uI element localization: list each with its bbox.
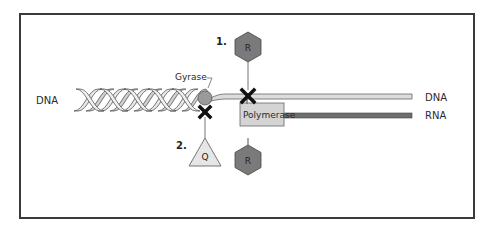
dna-right-label: DNA [425, 92, 447, 103]
inhibitor-r-top-label: R [245, 43, 251, 53]
step-1-label: 1. [216, 36, 227, 47]
block-mark-gyrase-icon [200, 107, 210, 117]
gyrase-pointer [207, 78, 212, 88]
dna-left-label: DNA [36, 95, 58, 106]
gyrase-enzyme [198, 91, 212, 105]
step-2-label: 2. [176, 140, 187, 151]
dna-double-helix [74, 89, 208, 111]
inhibitor-r-bottom-label: R [245, 156, 251, 166]
rna-right-label: RNA [425, 110, 446, 121]
inhibitor-q-label: Q [201, 152, 208, 162]
rna-strand [284, 113, 412, 118]
gyrase-label: Gyrase [175, 72, 207, 82]
dna-single-strand [210, 94, 412, 101]
polymerase-label: Polymerase [243, 110, 296, 120]
dna-replication-inhibition-diagram: DNA DNA RNA Gyrase [0, 0, 492, 225]
